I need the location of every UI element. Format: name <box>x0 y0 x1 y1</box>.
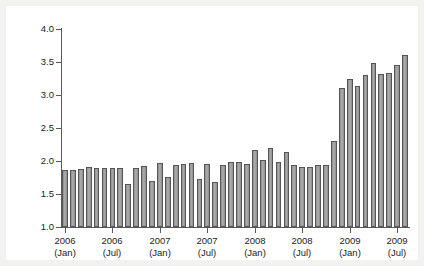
bar <box>347 79 353 227</box>
x-tick-label-year: 2009 <box>367 235 424 247</box>
y-tick-label-text: 4.0 <box>28 24 54 34</box>
x-tick-mark <box>207 228 208 233</box>
bar <box>299 167 305 227</box>
bar <box>70 170 76 227</box>
y-tick-label: 2.5 <box>24 123 54 133</box>
bar <box>189 163 195 227</box>
bar <box>339 88 345 227</box>
bar <box>78 169 84 227</box>
bar <box>378 74 384 227</box>
bar <box>268 148 274 227</box>
y-tick-label: 1.5 <box>24 189 54 199</box>
y-tick-label-text: 3.5 <box>28 57 54 67</box>
bar <box>244 164 250 227</box>
bar <box>94 168 100 227</box>
bar <box>157 163 163 227</box>
bar <box>402 55 408 227</box>
bar <box>323 165 329 227</box>
y-tick-label-text: 1.0 <box>28 222 54 232</box>
chart-canvas: Spread, percentage points 1.01.52.02.53.… <box>6 6 418 260</box>
bar <box>371 63 377 227</box>
bar <box>212 182 218 227</box>
bar <box>315 165 321 227</box>
bar <box>363 75 369 227</box>
x-tick-label: 2009(Jul) <box>367 235 424 259</box>
bar <box>165 177 171 227</box>
x-tick-mark <box>65 228 66 233</box>
bar <box>62 170 68 227</box>
bar <box>133 168 139 227</box>
bar <box>204 164 210 227</box>
x-tick-label-month: (Jul) <box>367 247 424 259</box>
bars-container <box>61 29 409 227</box>
x-axis-line <box>61 227 410 228</box>
bar <box>149 181 155 227</box>
bar <box>307 167 313 227</box>
bar <box>252 150 258 227</box>
bar <box>220 165 226 227</box>
bar <box>394 65 400 227</box>
y-tick-label-text: 2.5 <box>28 123 54 133</box>
y-tick-label-text: 3.0 <box>28 90 54 100</box>
x-tick-mark <box>112 228 113 233</box>
x-tick-mark <box>302 228 303 233</box>
bar <box>117 168 123 227</box>
bar <box>291 165 297 227</box>
bar <box>110 168 116 227</box>
y-tick-label: 4.0 <box>24 24 54 34</box>
bar <box>386 73 392 227</box>
x-tick-mark <box>397 228 398 233</box>
bar <box>173 165 179 227</box>
x-tick-mark <box>255 228 256 233</box>
x-tick-mark <box>160 228 161 233</box>
bar <box>141 166 147 227</box>
bar <box>125 184 131 227</box>
bar <box>331 141 337 227</box>
bar <box>284 152 290 227</box>
y-tick-label-text: 2.0 <box>28 156 54 166</box>
y-tick-label: 2.0 <box>24 156 54 166</box>
bar <box>355 86 361 227</box>
y-tick-mark <box>56 227 61 228</box>
bar <box>197 179 203 227</box>
y-tick-label-text: 1.5 <box>28 189 54 199</box>
y-tick-label: 3.5 <box>24 57 54 67</box>
bar <box>236 162 242 227</box>
bar <box>86 167 92 227</box>
bar <box>276 162 282 227</box>
y-tick-label: 1.0 <box>24 222 54 232</box>
bar <box>102 168 108 227</box>
chart-figure: Spread, percentage points 1.01.52.02.53.… <box>0 0 424 266</box>
bar <box>228 162 234 227</box>
bar <box>260 160 266 227</box>
x-tick-mark <box>350 228 351 233</box>
y-tick-label: 3.0 <box>24 90 54 100</box>
bar <box>181 164 187 227</box>
